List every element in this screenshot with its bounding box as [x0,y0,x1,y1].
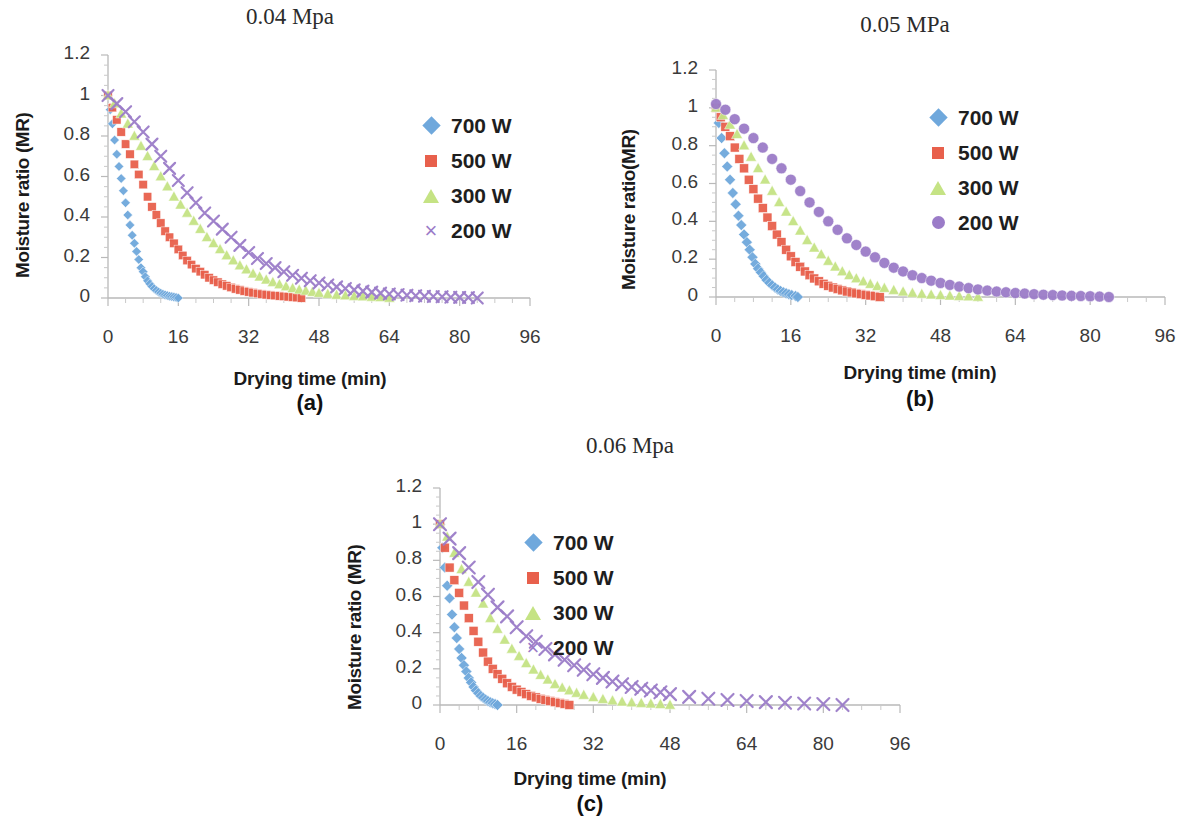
panel-a-xtick-label: 32 [219,326,279,348]
legend-label: 200 W [553,636,614,660]
panel-b-xtick-label: 80 [1060,325,1120,347]
panel-c-xtick-label: 48 [640,733,700,755]
panel-c-xtick-label: 80 [793,733,853,755]
panel-a-xtick-label: 48 [289,326,349,348]
legend-label: 300 W [553,601,614,625]
cross-marker-icon: × [520,635,546,661]
panel-b-ytick-label: 0.6 [634,171,698,193]
panel-b-x-axis-title: Drying time (min) [770,362,1070,388]
triangle-marker-icon [418,183,444,209]
panel-b-xtick-label: 0 [686,325,746,347]
panel-b-ytick-label: 0.2 [634,246,698,268]
panel-c-ytick-label: 0.6 [358,584,422,606]
panel-a-ytick-label: 0.4 [26,204,90,226]
square-marker-icon [520,565,546,591]
panel-b-xtick-label: 96 [1135,325,1189,347]
panel-c-xtick-label: 16 [487,733,547,755]
circle-marker-icon [925,210,951,236]
panel-a-ytick-label: 1 [26,83,90,105]
cross-marker-icon: × [418,218,444,244]
panel-b-caption: (b) [770,386,1070,412]
panel-c-xtick-label: 0 [410,733,470,755]
panel-c-ytick-label: 0.8 [358,547,422,569]
legend-label: 700 W [553,531,614,555]
panel-a-xtick-label: 0 [78,326,138,348]
diamond-marker-icon [520,530,546,556]
panel-b-ytick-label: 0.4 [634,208,698,230]
panel-c-ytick-label: 1.2 [358,475,422,497]
panel-c-xtick-label: 64 [717,733,777,755]
panel-a-ytick-label: 0 [26,285,90,307]
panel-a-caption: (a) [160,390,460,416]
panel-a-ytick-label: 1.2 [26,42,90,64]
panel-a-legend: 700 W500 W300 W×200 W [418,108,512,248]
panel-b-ytick-label: 1.2 [634,57,698,79]
panel-a-ytick-label: 0.6 [26,164,90,186]
legend-item-700-w[interactable]: 700 W [925,100,1019,135]
legend-label: 200 W [451,219,512,243]
panel-c-caption: (c) [440,791,740,817]
legend-item-300-w[interactable]: 300 W [418,178,512,213]
panel-b-xtick-label: 16 [761,325,821,347]
legend-label: 700 W [958,106,1019,130]
legend-label: 500 W [553,566,614,590]
panel-c-ytick-label: 0 [358,692,422,714]
panel-b-xtick-label: 64 [985,325,1045,347]
chart-panel-c: 0.06 Mpa Moisture ratio (MR) 700 W500 W3… [320,425,980,823]
panel-c-xtick-label: 32 [563,733,623,755]
panel-c-ytick-label: 0.2 [358,656,422,678]
legend-item-200-w[interactable]: ×200 W [418,213,512,248]
chart-panel-b: 0.05 MPa Moisture ratio(MR) 700 W500 W30… [600,0,1189,420]
panel-b-ytick-label: 1 [634,95,698,117]
panel-c-ytick-label: 0.4 [358,620,422,642]
legend-item-500-w[interactable]: 500 W [520,560,614,595]
legend-label: 300 W [958,176,1019,200]
panel-c-legend: 700 W500 W300 W×200 W [520,525,614,665]
legend-item-500-w[interactable]: 500 W [418,143,512,178]
panel-a-xtick-label: 64 [359,326,419,348]
legend-label: 500 W [958,141,1019,165]
panel-b-xtick-label: 48 [911,325,971,347]
diamond-marker-icon [418,113,444,139]
panel-b-xtick-label: 32 [836,325,896,347]
panel-a-xtick-label: 96 [500,326,560,348]
legend-item-500-w[interactable]: 500 W [925,135,1019,170]
legend-label: 500 W [451,149,512,173]
legend-item-300-w[interactable]: 300 W [520,595,614,630]
panel-a-ytick-label: 0.8 [26,123,90,145]
triangle-marker-icon [520,600,546,626]
chart-panel-a: 0.04 Mpa Moisture ratio (MR) 700 W500 W3… [0,0,600,420]
series-200-w [711,99,1115,303]
panel-c-xtick-label: 96 [870,733,930,755]
legend-item-700-w[interactable]: 700 W [418,108,512,143]
panel-c-ytick-label: 1 [358,511,422,533]
legend-item-200-w[interactable]: ×200 W [520,630,614,665]
panel-b-legend: 700 W500 W300 W200 W [925,100,1019,240]
triangle-marker-icon [925,175,951,201]
series-200-w [434,518,849,711]
panel-b-ytick-label: 0.8 [634,133,698,155]
panel-a-x-axis-title: Drying time (min) [160,368,460,392]
legend-item-700-w[interactable]: 700 W [520,525,614,560]
legend-label: 200 W [958,211,1019,235]
panel-b-ytick-label: 0 [634,284,698,306]
legend-label: 700 W [451,114,512,138]
legend-item-300-w[interactable]: 300 W [925,170,1019,205]
panel-a-ytick-label: 0.2 [26,245,90,267]
panel-a-xtick-label: 80 [430,326,490,348]
panel-a-xtick-label: 16 [148,326,208,348]
diamond-marker-icon [925,105,951,131]
square-marker-icon [925,140,951,166]
legend-item-200-w[interactable]: 200 W [925,205,1019,240]
square-marker-icon [418,148,444,174]
legend-label: 300 W [451,184,512,208]
